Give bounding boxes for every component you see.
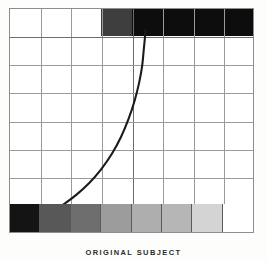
gray-step-8: [223, 204, 253, 232]
characteristic-curve: [10, 9, 253, 232]
gray-step-4: [101, 204, 131, 232]
gray-step-5: [132, 204, 162, 232]
bottom-grayscale-wedge: [10, 204, 253, 232]
gray-step-6: [162, 204, 192, 232]
gray-step-3: [71, 204, 101, 232]
gray-step-7: [192, 204, 222, 232]
gray-step-1: [10, 204, 40, 232]
tone-reproduction-figure: ORIGINAL SUBJECT: [0, 0, 267, 261]
chart-plot-area: [9, 8, 254, 233]
figure-caption: ORIGINAL SUBJECT: [0, 248, 267, 257]
gray-step-2: [40, 204, 70, 232]
